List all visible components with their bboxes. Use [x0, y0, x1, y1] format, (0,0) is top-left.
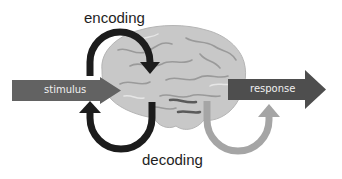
response-label: response [250, 84, 295, 94]
encoding-label: encoding [84, 10, 145, 25]
stimulus-label: stimulus [44, 85, 86, 95]
decoding-label: decoding [142, 152, 203, 167]
encoding-decoding-diagram: encoding decoding stimulus response [0, 0, 342, 179]
brain-image [102, 26, 246, 130]
